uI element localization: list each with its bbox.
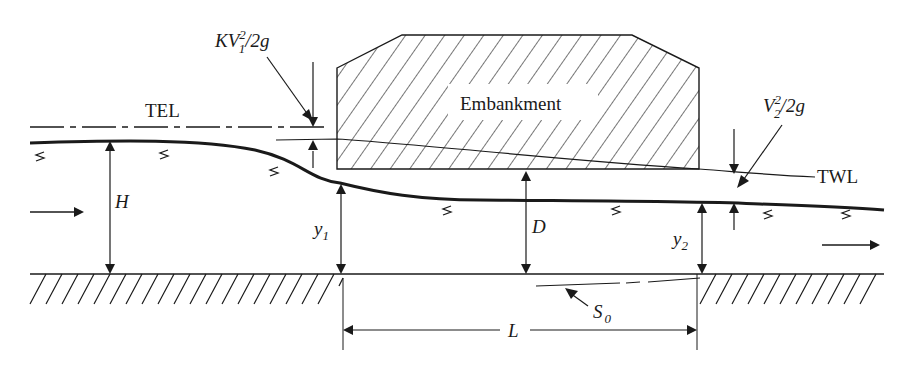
y1-dimension: y1	[312, 184, 346, 350]
channel-bed	[30, 274, 884, 304]
twl-label: TWL	[817, 166, 858, 187]
d-dimension: D	[521, 171, 546, 274]
flow-arrow-downstream	[822, 240, 880, 250]
h-dimension: H	[105, 141, 130, 274]
culvert-diagram: Embankment TEL TWL	[0, 0, 904, 368]
tel-line: TEL	[30, 100, 330, 127]
slope-callout: S0	[565, 288, 612, 326]
flow-arrow-upstream	[30, 207, 84, 217]
l-dimension: L	[343, 320, 697, 341]
d-label: D	[531, 216, 546, 237]
s0-label: S0	[593, 301, 612, 326]
y2-label: y2	[671, 228, 688, 253]
embankment: Embankment	[337, 35, 699, 169]
exit-head-callout: V22/2g	[729, 92, 805, 230]
y1-label: y1	[312, 218, 329, 243]
tel-label: TEL	[145, 100, 180, 121]
exit-head-label: V22/2g	[763, 92, 805, 121]
l-label: L	[507, 320, 519, 341]
embankment-label: Embankment	[460, 93, 562, 114]
h-label: H	[114, 191, 130, 212]
entrance-loss-label: KV21/2g	[214, 27, 270, 56]
